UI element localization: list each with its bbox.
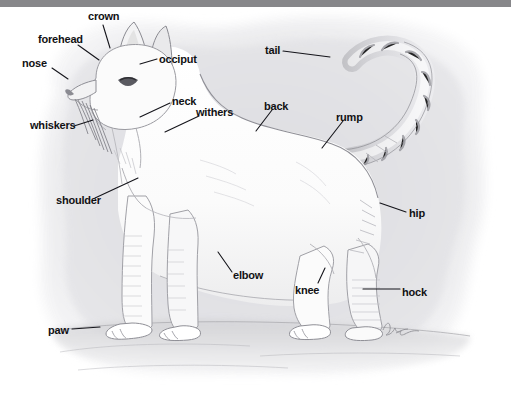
- label-shoulder: shoulder: [56, 195, 101, 206]
- label-rump: rump: [336, 112, 363, 123]
- label-whiskers: whiskers: [30, 120, 75, 131]
- anatomy-diagram-figure: crown forehead nose occiput tail whisker…: [0, 0, 511, 411]
- label-nose: nose: [22, 58, 47, 69]
- label-elbow: elbow: [233, 270, 263, 281]
- label-forehead: forehead: [38, 34, 83, 45]
- label-occiput: occiput: [159, 54, 197, 65]
- top-gray-bar: [0, 0, 511, 7]
- label-neck: neck: [172, 96, 196, 107]
- label-hock: hock: [402, 287, 427, 298]
- label-knee: knee: [295, 285, 319, 296]
- label-paw: paw: [48, 325, 69, 336]
- label-back: back: [264, 101, 288, 112]
- label-tail: tail: [265, 45, 280, 56]
- label-withers: withers: [196, 107, 233, 118]
- label-hip: hip: [409, 208, 425, 219]
- label-crown: crown: [88, 11, 119, 22]
